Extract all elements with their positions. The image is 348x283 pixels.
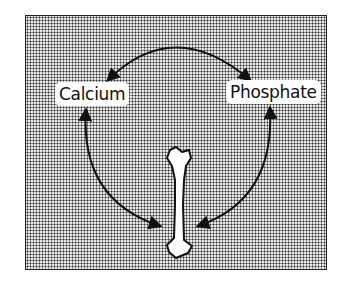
bone-icon: [167, 147, 192, 258]
arrow-calcium-phosphate: [108, 48, 250, 81]
diagram-arrows: [0, 0, 348, 283]
calcium-label: Calcium: [55, 82, 129, 106]
phosphate-label: Phosphate: [226, 80, 321, 104]
arrow-phosphate-bone: [198, 108, 270, 226]
arrow-calcium-bone: [86, 110, 160, 226]
